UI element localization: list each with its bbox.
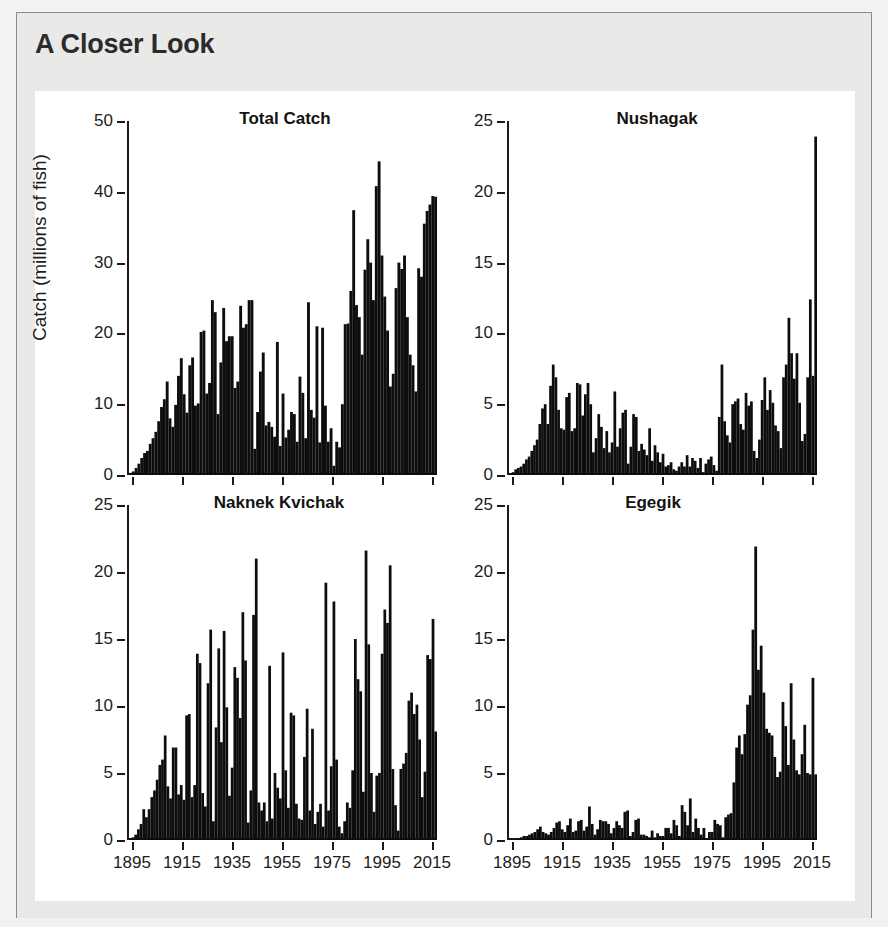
x-tick-label: 1995 <box>743 853 781 873</box>
y-tick-label: 5 <box>484 763 493 783</box>
y-tick-label: 15 <box>474 629 493 649</box>
x-tick-mark <box>762 477 764 485</box>
x-tick-mark <box>132 842 134 850</box>
y-tick-label: 0 <box>484 465 493 485</box>
y-tick-label: 25 <box>94 495 113 515</box>
x-tick-mark <box>332 842 334 850</box>
y-tick-label: 15 <box>94 629 113 649</box>
figure-card: A Closer Look Catch (millions of fish) T… <box>16 12 872 918</box>
x-tick-mark <box>612 842 614 850</box>
panel-total-catch: Total Catch 01020304050 <box>69 107 441 487</box>
x-tick-label: 1975 <box>693 853 731 873</box>
y-tick-label: 0 <box>484 830 493 850</box>
y-tick-mark <box>497 333 505 335</box>
page-title: A Closer Look <box>35 29 214 60</box>
y-tick-mark <box>117 773 125 775</box>
x-tick-label: 1935 <box>593 853 631 873</box>
x-tick-label: 1955 <box>263 853 301 873</box>
y-tick-label: 20 <box>94 323 113 343</box>
axis-area-nushagak: 0510152025 <box>507 121 817 475</box>
y-tick-mark <box>117 572 125 574</box>
y-tick-label: 10 <box>474 323 493 343</box>
x-tick-mark <box>382 842 384 850</box>
y-tick-label: 10 <box>94 696 113 716</box>
x-tick-label: 1895 <box>493 853 531 873</box>
x-tick-mark <box>712 477 714 485</box>
y-tick-label: 50 <box>94 111 113 131</box>
x-tick-label: 1895 <box>113 853 151 873</box>
x-tick-mark <box>182 477 184 485</box>
x-tick-mark <box>382 477 384 485</box>
y-tick-label: 20 <box>94 562 113 582</box>
y-tick-mark <box>497 475 505 477</box>
y-tick-mark <box>497 773 505 775</box>
figure-root: A Closer Look Catch (millions of fish) T… <box>0 0 888 927</box>
x-tick-mark <box>562 842 564 850</box>
panel-nushagak: Nushagak 0510152025 <box>449 107 821 487</box>
y-tick-mark <box>497 505 505 507</box>
x-tick-mark <box>662 842 664 850</box>
y-tick-mark <box>497 121 505 123</box>
x-tick-label: 1975 <box>313 853 351 873</box>
x-tick-mark <box>332 477 334 485</box>
x-tick-label: 1935 <box>213 853 251 873</box>
y-tick-mark <box>117 505 125 507</box>
x-tick-mark <box>512 477 514 485</box>
x-tick-label: 1915 <box>163 853 201 873</box>
x-tick-mark <box>612 477 614 485</box>
y-tick-label: 0 <box>104 830 113 850</box>
x-tick-label: 2015 <box>413 853 451 873</box>
y-tick-label: 10 <box>94 394 113 414</box>
x-tick-mark <box>232 842 234 850</box>
y-tick-label: 20 <box>474 182 493 202</box>
bars-naknek-kvichak <box>129 505 437 840</box>
x-tick-label: 2015 <box>793 853 831 873</box>
panel-egegik: Egegik 051015202518951915193519551975199… <box>449 491 821 886</box>
x-tick-mark <box>132 477 134 485</box>
axis-area-egegik: 05101520251895191519351955197519952015 <box>507 505 817 840</box>
y-tick-label: 15 <box>474 253 493 273</box>
card-header: A Closer Look <box>17 13 871 91</box>
y-tick-mark <box>117 639 125 641</box>
y-tick-label: 0 <box>104 465 113 485</box>
y-tick-mark <box>497 404 505 406</box>
x-tick-mark <box>762 842 764 850</box>
y-tick-mark <box>117 121 125 123</box>
y-tick-label: 5 <box>484 394 493 414</box>
y-tick-mark <box>117 840 125 842</box>
y-tick-label: 25 <box>474 111 493 131</box>
y-tick-mark <box>497 192 505 194</box>
axis-area-naknek-kvichak: 05101520251895191519351955197519952015 <box>127 505 437 840</box>
y-tick-mark <box>117 706 125 708</box>
plot-canvas: Catch (millions of fish) Total Catch 010… <box>35 91 855 901</box>
x-tick-label: 1915 <box>543 853 581 873</box>
y-tick-mark <box>497 639 505 641</box>
x-tick-mark <box>432 842 434 850</box>
y-tick-mark <box>497 572 505 574</box>
y-tick-mark <box>117 404 125 406</box>
x-tick-label: 1995 <box>363 853 401 873</box>
x-tick-mark <box>812 842 814 850</box>
x-tick-mark <box>232 477 234 485</box>
y-tick-label: 10 <box>474 696 493 716</box>
x-tick-mark <box>182 842 184 850</box>
y-tick-label: 20 <box>474 562 493 582</box>
y-tick-mark <box>117 263 125 265</box>
bars-total-catch <box>129 121 437 475</box>
x-tick-mark <box>662 477 664 485</box>
x-tick-mark <box>282 842 284 850</box>
y-tick-mark <box>497 706 505 708</box>
y-tick-mark <box>497 840 505 842</box>
panel-grid: Total Catch 01020304050 Nushagak 0510152… <box>35 91 855 901</box>
y-tick-mark <box>497 263 505 265</box>
x-tick-mark <box>512 842 514 850</box>
y-tick-label: 40 <box>94 182 113 202</box>
x-tick-mark <box>712 842 714 850</box>
x-tick-mark <box>562 477 564 485</box>
y-tick-label: 30 <box>94 253 113 273</box>
y-tick-mark <box>117 475 125 477</box>
y-tick-mark <box>117 192 125 194</box>
x-tick-mark <box>432 477 434 485</box>
x-tick-label: 1955 <box>643 853 681 873</box>
bars-nushagak <box>509 121 817 475</box>
